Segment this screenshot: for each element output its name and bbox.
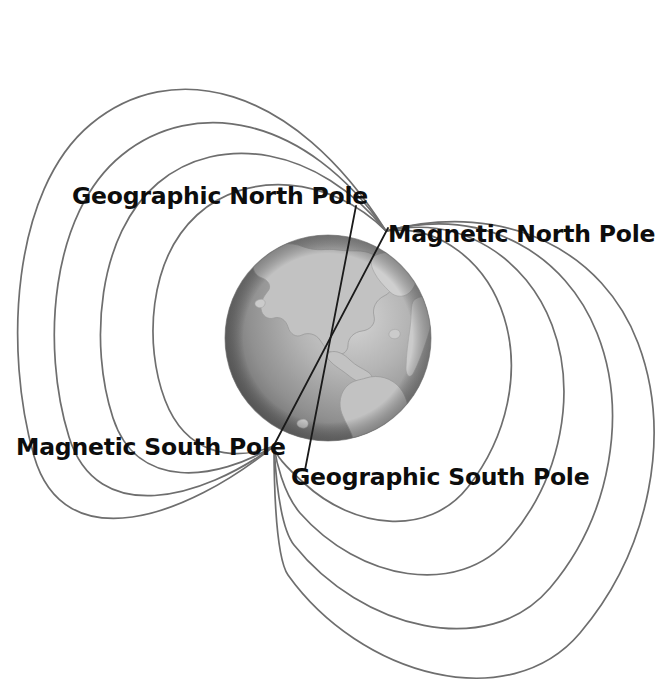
field-lines-canvas [0, 0, 663, 688]
label-geographic-north-pole: Geographic North Pole [72, 185, 368, 209]
label-magnetic-south-pole: Magnetic South Pole [16, 436, 286, 460]
magnetic-field-diagram: Geographic North Pole Magnetic North Pol… [0, 0, 663, 688]
label-geographic-south-pole: Geographic South Pole [291, 466, 589, 490]
label-magnetic-north-pole: Magnetic North Pole [388, 223, 655, 247]
